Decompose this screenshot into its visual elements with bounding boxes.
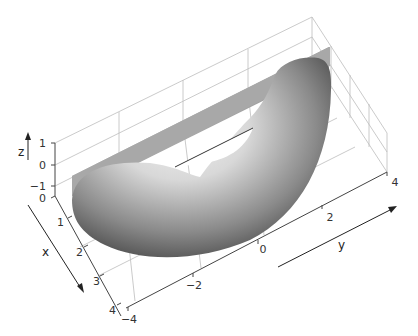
y-axis-label: y bbox=[338, 238, 345, 252]
x-tick-3: 3 bbox=[93, 275, 100, 288]
y-tick-minus4: −4 bbox=[121, 313, 137, 326]
y-tick-0: 0 bbox=[260, 243, 267, 256]
z-tick-0: 0 bbox=[39, 159, 46, 172]
z-tick-1: 1 bbox=[39, 137, 46, 150]
y-tick-2: 2 bbox=[327, 211, 334, 224]
y-tick-4: 4 bbox=[392, 176, 399, 189]
x-arrow bbox=[28, 205, 80, 287]
z-axis-label: z bbox=[18, 145, 24, 159]
x-axis-label: x bbox=[42, 245, 49, 259]
z-axis bbox=[51, 143, 55, 196]
x-tick-4: 4 bbox=[109, 304, 116, 317]
x-tick-0: 0 bbox=[39, 192, 46, 205]
y-tick-minus2: −2 bbox=[186, 279, 202, 292]
x-tick-1: 1 bbox=[57, 216, 64, 229]
z-arrow-head bbox=[25, 132, 31, 140]
y-arrow-head bbox=[388, 206, 397, 213]
surface-plot: 1 0 −1 z 0 1 2 3 4 x −4 −2 0 2 4 y bbox=[0, 0, 418, 336]
x-tick-2: 2 bbox=[76, 246, 83, 259]
y-arrow bbox=[278, 210, 390, 267]
